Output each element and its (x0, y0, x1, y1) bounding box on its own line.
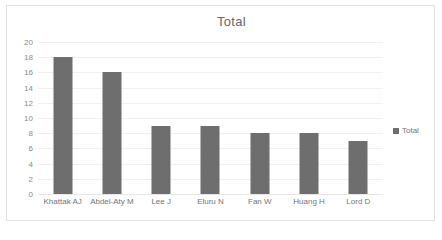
x-axis: Khattak AJAbdel-Aty MLee JEluru NFan WHu… (38, 196, 383, 224)
bar[interactable] (152, 126, 171, 194)
bar[interactable] (250, 133, 269, 194)
bar-slot (137, 42, 186, 194)
plot-area: 02468101214161820 (38, 42, 383, 194)
x-axis-tick-label: Eluru N (186, 196, 235, 207)
y-axis-tick-label: 8 (29, 129, 33, 138)
x-axis-tick-label: Lord D (334, 196, 383, 207)
gridline (38, 194, 383, 195)
y-axis-tick-label: 20 (24, 38, 33, 47)
bar[interactable] (349, 141, 368, 194)
y-axis-tick-label: 6 (29, 144, 33, 153)
bar-series-total (38, 42, 383, 194)
x-axis-tick-label: Khattak AJ (38, 196, 87, 207)
y-axis-tick-label: 12 (24, 98, 33, 107)
x-axis-tick-label: Abdel-Aty M (87, 196, 136, 207)
bar[interactable] (53, 57, 72, 194)
bar-slot (186, 42, 235, 194)
x-axis-tick-label: Huang H (284, 196, 333, 207)
chart-title: Total (7, 14, 434, 29)
y-axis-tick-label: 4 (29, 159, 33, 168)
x-axis-tick-label: Fan W (235, 196, 284, 207)
y-axis-tick-label: 18 (24, 53, 33, 62)
bar-slot (284, 42, 333, 194)
bar-slot (87, 42, 136, 194)
bar-slot (334, 42, 383, 194)
legend-item-label: Total (402, 126, 419, 135)
y-axis-tick-label: 14 (24, 83, 33, 92)
bar[interactable] (201, 126, 220, 194)
bar-slot (38, 42, 87, 194)
y-axis-tick-label: 0 (29, 190, 33, 199)
x-axis-tick-label: Lee J (137, 196, 186, 207)
y-axis-tick-label: 2 (29, 174, 33, 183)
bar[interactable] (102, 72, 121, 194)
bar[interactable] (300, 133, 319, 194)
y-axis-tick-label: 16 (24, 68, 33, 77)
y-axis-tick-label: 10 (24, 114, 33, 123)
chart-legend: Total (393, 126, 419, 135)
legend-square-marker-icon (393, 128, 399, 134)
chart-container: Total 02468101214161820 Khattak AJAbdel-… (6, 5, 435, 221)
bar-slot (235, 42, 284, 194)
